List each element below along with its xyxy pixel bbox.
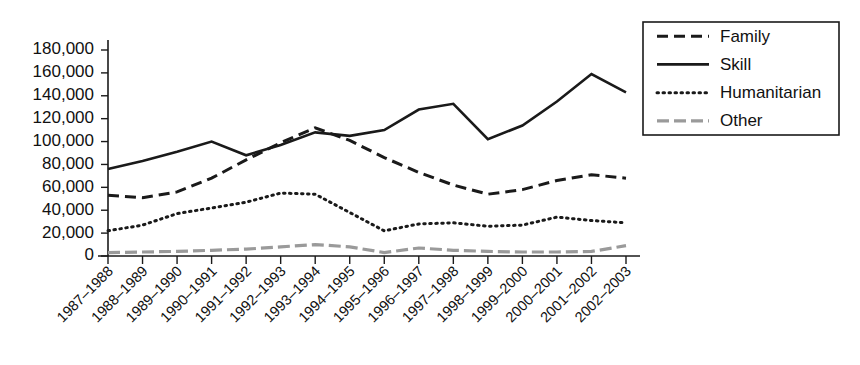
legend-label-other: Other: [720, 111, 763, 130]
series-line-humanitarian: [108, 193, 626, 231]
x-axis-tick-marks: [108, 256, 626, 264]
chart-canvas: 020,00040,00060,00080,000100,000120,0001…: [0, 0, 860, 365]
chart-legend: FamilySkillHumanitarianOther: [643, 22, 839, 135]
y-axis-tick-label: 20,000: [42, 223, 94, 242]
legend-label-skill: Skill: [720, 55, 751, 74]
y-axis-tick-label: 100,000: [33, 131, 94, 150]
y-axis-tick-label: 160,000: [33, 62, 94, 81]
y-axis-tick-label: 40,000: [42, 200, 94, 219]
legend-label-family: Family: [720, 27, 771, 46]
line-chart: 020,00040,00060,00080,000100,000120,0001…: [0, 0, 860, 365]
series-line-skill: [108, 74, 626, 169]
y-axis-tick-label: 80,000: [42, 154, 94, 173]
data-series-group: [108, 74, 626, 253]
y-axis-tick-label: 0: [85, 245, 94, 264]
y-axis-tick-label: 140,000: [33, 85, 94, 104]
y-axis-tick-labels: 020,00040,00060,00080,000100,000120,0001…: [33, 39, 94, 264]
series-line-family: [108, 128, 626, 198]
y-axis-tick-label: 120,000: [33, 108, 94, 127]
x-axis-tick-labels: 1987–19881988–19891989–19901990–19911991…: [53, 263, 634, 326]
y-axis-tick-marks: [101, 50, 108, 256]
y-axis-tick-label: 180,000: [33, 39, 94, 58]
y-axis-tick-label: 60,000: [42, 177, 94, 196]
legend-label-humanitarian: Humanitarian: [720, 83, 821, 102]
series-line-other: [108, 245, 626, 253]
